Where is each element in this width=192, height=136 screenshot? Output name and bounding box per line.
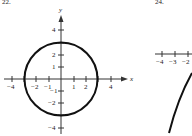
x-axis-arrow-icon — [121, 77, 128, 82]
x-tick-label: 2 — [84, 83, 88, 91]
partial-curve — [169, 73, 192, 133]
left-graph: 22. x y −4 −2 −1 1 2 4 — [2, 0, 134, 134]
y-tick-label: 1 — [52, 63, 56, 71]
x-axis-label: x — [129, 75, 134, 83]
x-tick-label: −2 — [182, 58, 190, 66]
y-tick-label: 2 — [52, 51, 56, 59]
problem-number-right: 24. — [155, 0, 164, 6]
x-tick-label: −3 — [169, 58, 177, 66]
y-tick-label: 4 — [52, 26, 56, 34]
x-tick-label: 4 — [109, 83, 113, 91]
x-tick-label: −4 — [156, 58, 164, 66]
y-tick-label: −4 — [48, 124, 56, 132]
problem-number-left: 22. — [2, 0, 11, 6]
y-tick-label: −1 — [50, 87, 58, 95]
x-tick-label: 1 — [72, 83, 76, 91]
y-tick-label: −2 — [48, 99, 56, 107]
x-tick-label: −4 — [7, 83, 15, 91]
y-axis-arrow-icon — [59, 15, 64, 22]
figure-canvas: 22. x y −4 −2 −1 1 2 4 — [0, 0, 192, 136]
right-graph: 24. −4 −3 −2 — [155, 0, 192, 133]
x-tick-label: −2 — [31, 83, 39, 91]
y-axis-label: y — [58, 6, 63, 14]
